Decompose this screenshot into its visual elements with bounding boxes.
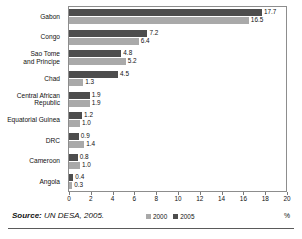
bar-group: 0.81.0	[69, 154, 287, 169]
bar-value-label: 4.8	[123, 49, 132, 57]
legend-item: 2000	[146, 213, 167, 220]
legend-label: 2005	[180, 213, 194, 220]
legend-item: 2005	[173, 213, 194, 220]
bar-value-label: 0.9	[81, 132, 90, 140]
category-label: Cameroon	[0, 151, 64, 172]
bar-2000	[69, 58, 126, 65]
source-label: Source:	[12, 211, 42, 220]
clipped-title-strip	[0, 0, 302, 5]
bar-wrapper: 0.3	[69, 182, 287, 189]
bar-2005	[69, 92, 90, 99]
bar-2000	[69, 182, 72, 189]
axis-tick-label: 20	[283, 195, 290, 202]
bar-group: 0.91.4	[69, 133, 287, 148]
category-label: Congo	[0, 27, 64, 48]
bar-wrapper: 0.9	[69, 133, 287, 140]
axis-tick-label: 2	[89, 195, 93, 202]
bar-group: 0.40.3	[69, 174, 287, 189]
bar-2000	[69, 38, 139, 45]
bar-wrapper: 17.7	[69, 9, 287, 16]
legend-swatch-icon	[173, 214, 178, 219]
bar-wrapper: 1.2	[69, 112, 287, 119]
axis-tick-label: 0	[67, 195, 71, 202]
bar-2000	[69, 79, 83, 86]
footer-divider	[8, 228, 294, 229]
bar-wrapper: 1.9	[69, 100, 287, 107]
bar-value-label: 1.4	[86, 140, 95, 148]
bar-wrapper: 0.4	[69, 174, 287, 181]
chart-rows: Gabon17.716.5Congo7.26.4Sao Tome and Pri…	[0, 6, 302, 192]
bar-2005	[69, 133, 79, 140]
bar-value-label: 17.7	[264, 8, 276, 16]
axis-tick-label: 18	[262, 195, 269, 202]
bar-group: 4.85.2	[69, 50, 287, 65]
bar-wrapper: 1.3	[69, 79, 287, 86]
bar-group: 1.91.9	[69, 92, 287, 107]
chart-footer: Source: UN DESA, 2005. 20002005 %	[0, 211, 302, 225]
bar-2000	[69, 100, 90, 107]
bar-group: 17.716.5	[69, 9, 287, 24]
category-label: Chad	[0, 68, 64, 89]
category-label: DRC	[0, 130, 64, 151]
bar-wrapper: 16.5	[69, 17, 287, 24]
bar-value-label: 1.0	[82, 119, 91, 127]
bar-value-label: 0.3	[74, 181, 83, 189]
bar-2000	[69, 162, 80, 169]
bar-wrapper: 1.0	[69, 120, 287, 127]
bar-value-label: 7.2	[149, 29, 158, 37]
bar-2005	[69, 112, 82, 119]
bar-value-label: 6.4	[141, 37, 150, 45]
bar-value-label: 1.0	[82, 161, 91, 169]
bar-2005	[69, 50, 121, 57]
bar-2000	[69, 120, 80, 127]
bar-wrapper: 5.2	[69, 58, 287, 65]
bar-value-label: 4.5	[120, 70, 129, 78]
axis-tick-label: 12	[196, 195, 203, 202]
bar-value-label: 1.9	[92, 91, 101, 99]
category-label: Equatorial Guinea	[0, 109, 64, 130]
bar-wrapper: 7.2	[69, 30, 287, 37]
category-label: Gabon	[0, 6, 64, 27]
category-label: Sao Tome and Principe	[0, 47, 64, 68]
bar-wrapper: 1.4	[69, 141, 287, 148]
legend-swatch-icon	[146, 214, 151, 219]
unit-label: %	[284, 212, 290, 219]
figure-container: Gabon17.716.5Congo7.26.4Sao Tome and Pri…	[0, 0, 302, 239]
bar-wrapper: 0.8	[69, 154, 287, 161]
bar-group: 7.26.4	[69, 30, 287, 45]
bar-2000	[69, 141, 84, 148]
chart-legend: 20002005	[146, 213, 194, 220]
axis-tick-label: 4	[111, 195, 115, 202]
axis-tick-label: 14	[218, 195, 225, 202]
bar-value-label: 1.9	[92, 99, 101, 107]
legend-label: 2000	[153, 213, 167, 220]
bar-wrapper: 1.0	[69, 162, 287, 169]
bar-value-label: 1.2	[84, 111, 93, 119]
bar-2000	[69, 17, 249, 24]
axis-tick-label: 16	[240, 195, 247, 202]
bar-value-label: 16.5	[251, 16, 263, 24]
axis-tick-label: 8	[154, 195, 158, 202]
bar-group: 4.51.3	[69, 71, 287, 86]
bar-group: 1.21.0	[69, 112, 287, 127]
bar-value-label: 0.4	[75, 173, 84, 181]
bar-2005	[69, 174, 73, 181]
bar-2005	[69, 71, 118, 78]
bar-2005	[69, 9, 262, 16]
axis-tick-label: 6	[133, 195, 137, 202]
bar-2005	[69, 154, 78, 161]
bar-wrapper: 4.8	[69, 50, 287, 57]
category-label: Angola	[0, 171, 64, 192]
bar-value-label: 0.8	[80, 153, 89, 161]
source-value: UN DESA, 2005.	[42, 211, 104, 220]
source-note: Source: UN DESA, 2005.	[12, 211, 104, 220]
x-axis: 02468101214161820	[68, 192, 287, 206]
bar-wrapper: 6.4	[69, 38, 287, 45]
category-label: Central African Republic	[0, 89, 64, 110]
bar-wrapper: 4.5	[69, 71, 287, 78]
bar-wrapper: 1.9	[69, 92, 287, 99]
axis-tick-label: 10	[174, 195, 181, 202]
bar-value-label: 1.3	[85, 78, 94, 86]
bar-value-label: 5.2	[128, 57, 137, 65]
bar-2005	[69, 30, 147, 37]
